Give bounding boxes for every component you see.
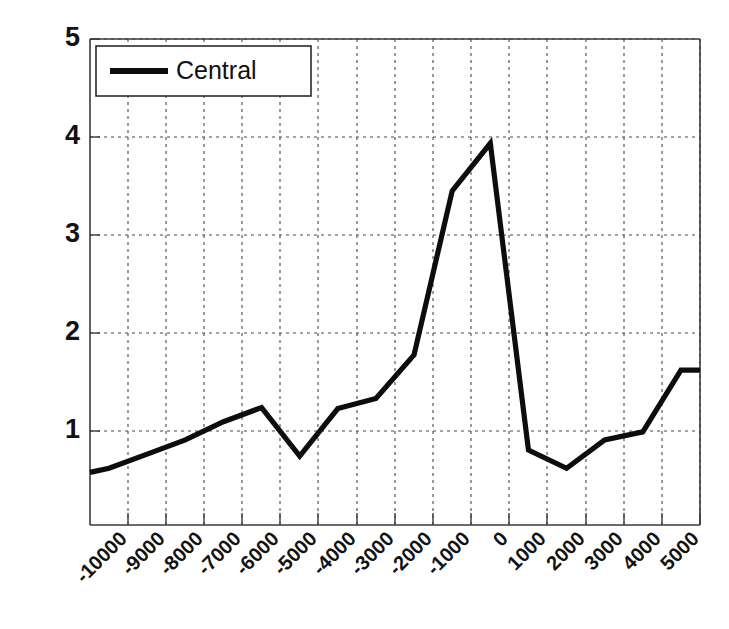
x-tick-label: 2000	[542, 527, 589, 574]
y-tick-labels: 5 4 3 2 1	[65, 22, 80, 444]
x-tick-label: 4000	[618, 527, 665, 574]
chart-figure: 5 4 3 2 1 -10000 -9000 -8000 -7000 -6000…	[0, 0, 729, 629]
x-tick-label: -9000	[117, 527, 169, 579]
x-tick-label: -3000	[346, 527, 398, 579]
y-tick-label: 5	[65, 22, 80, 52]
x-tick-label: -5000	[269, 527, 321, 579]
x-tick-marks	[128, 513, 700, 525]
x-tick-label: -7000	[193, 527, 245, 579]
line-chart: 5 4 3 2 1 -10000 -9000 -8000 -7000 -6000…	[0, 0, 729, 629]
x-tick-label: -4000	[308, 527, 360, 579]
vertical-gridlines	[128, 39, 700, 525]
legend[interactable]: Central	[96, 46, 311, 96]
y-tick-label: 1	[65, 414, 80, 444]
y-tick-label: 4	[65, 120, 80, 150]
x-tick-label: -10000	[71, 527, 131, 587]
x-tick-label: 1000	[503, 527, 550, 574]
x-tick-label: -1000	[422, 527, 474, 579]
x-tick-label: -6000	[231, 527, 283, 579]
y-tick-label: 3	[65, 218, 80, 248]
y-tick-marks	[90, 39, 100, 431]
legend-label-central: Central	[176, 56, 257, 84]
x-tick-label: -8000	[155, 527, 207, 579]
x-tick-label: 3000	[580, 527, 627, 574]
y-tick-label: 2	[65, 316, 80, 346]
x-tick-label: -2000	[384, 527, 436, 579]
x-tick-label: 0	[488, 527, 511, 550]
x-tick-label: 5000	[656, 527, 703, 574]
x-tick-labels: -10000 -9000 -8000 -7000 -6000 -5000 -40…	[71, 527, 703, 587]
